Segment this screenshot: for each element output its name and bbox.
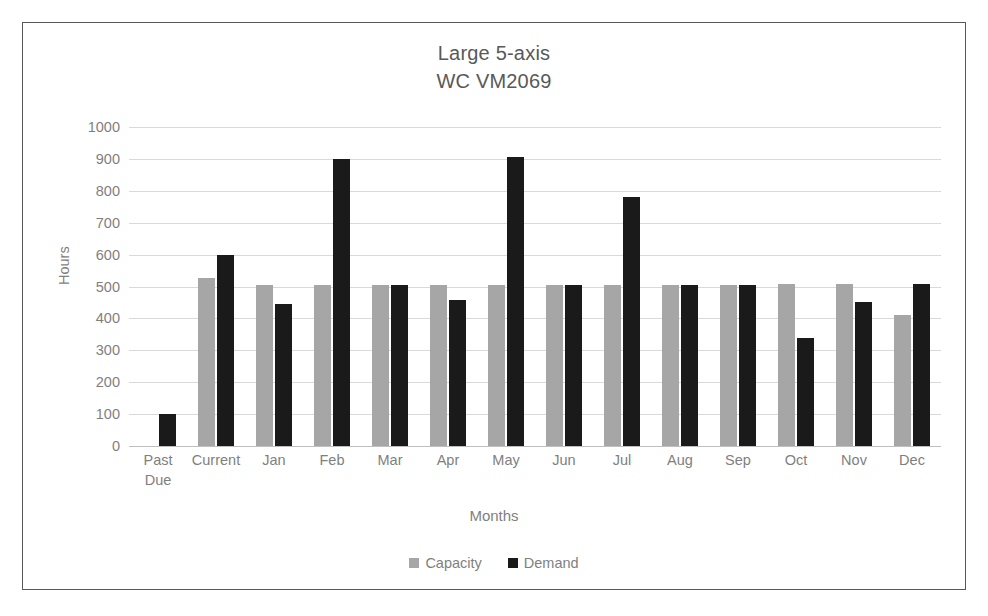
legend-swatch-icon <box>409 558 419 568</box>
bar-demand <box>623 197 640 446</box>
bar-demand <box>913 284 930 446</box>
x-tick-label-line: Dec <box>883 450 941 470</box>
bar-group <box>651 127 709 446</box>
x-tick-label: Jul <box>593 450 651 470</box>
x-tick-label: May <box>477 450 535 470</box>
x-tick-label-line: Past <box>129 450 187 470</box>
bar-group <box>361 127 419 446</box>
x-tick-label: Dec <box>883 450 941 470</box>
x-tick-label-line: May <box>477 450 535 470</box>
bar-demand <box>565 285 582 446</box>
bar-group <box>419 127 477 446</box>
legend-item[interactable]: Capacity <box>409 555 481 571</box>
gridline-0: 0 <box>129 446 941 447</box>
plot-area: 01002003004005006007008009001000 <box>129 127 941 446</box>
bar-demand <box>217 255 234 446</box>
x-tick-label: Jan <box>245 450 303 470</box>
x-tick-label: Apr <box>419 450 477 470</box>
bar-group <box>477 127 535 446</box>
y-tick-label: 500 <box>96 279 120 295</box>
x-tick-label-line: Nov <box>825 450 883 470</box>
bar-demand <box>449 300 466 446</box>
bar-capacity <box>256 285 273 446</box>
bar-group <box>535 127 593 446</box>
x-tick-label-line: Jul <box>593 450 651 470</box>
chart-title-line-1: Large 5-axis <box>23 39 965 67</box>
bar-capacity <box>720 285 737 446</box>
bar-group <box>303 127 361 446</box>
bar-capacity <box>662 285 679 446</box>
bar-demand <box>159 414 176 446</box>
bar-demand <box>333 159 350 446</box>
x-tick-label-line: Due <box>129 470 187 490</box>
y-tick-label: 400 <box>96 310 120 326</box>
x-tick-label-line: Apr <box>419 450 477 470</box>
bar-capacity <box>488 285 505 446</box>
bar-capacity <box>894 315 911 446</box>
x-axis-tick-labels: PastDueCurrentJanFebMarAprMayJunJulAugSe… <box>129 450 941 502</box>
x-tick-label-line: Jan <box>245 450 303 470</box>
bar-group <box>187 127 245 446</box>
x-tick-label: Jun <box>535 450 593 470</box>
y-tick-label: 300 <box>96 342 120 358</box>
x-tick-label: Feb <box>303 450 361 470</box>
bars-layer <box>129 127 941 446</box>
x-tick-label: Mar <box>361 450 419 470</box>
x-tick-label-line: Oct <box>767 450 825 470</box>
y-axis-title: Hours <box>56 246 72 285</box>
bar-capacity <box>778 284 795 446</box>
bar-demand <box>391 285 408 446</box>
y-tick-label: 700 <box>96 215 120 231</box>
y-tick-label: 800 <box>96 183 120 199</box>
chart-title-line-2: WC VM2069 <box>23 67 965 95</box>
legend-label: Capacity <box>425 555 481 571</box>
y-tick-label: 0 <box>112 438 120 454</box>
x-tick-label-line: Jun <box>535 450 593 470</box>
bar-group <box>245 127 303 446</box>
x-tick-label-line: Feb <box>303 450 361 470</box>
legend-swatch-icon <box>508 558 518 568</box>
chart-legend: CapacityDemand <box>23 555 965 571</box>
bar-demand <box>855 302 872 446</box>
x-tick-label-line: Aug <box>651 450 709 470</box>
bar-demand <box>507 157 524 446</box>
bar-group <box>883 127 941 446</box>
bar-group <box>593 127 651 446</box>
bar-group <box>767 127 825 446</box>
x-tick-label: Oct <box>767 450 825 470</box>
y-tick-label: 100 <box>96 406 120 422</box>
bar-group <box>709 127 767 446</box>
x-tick-label: Nov <box>825 450 883 470</box>
chart-frame: Large 5-axis WC VM2069 Hours 01002003004… <box>22 22 966 590</box>
bar-capacity <box>372 285 389 446</box>
bar-capacity <box>546 285 563 446</box>
x-tick-label: Aug <box>651 450 709 470</box>
bar-demand <box>739 285 756 446</box>
bar-group <box>825 127 883 446</box>
legend-item[interactable]: Demand <box>508 555 579 571</box>
legend-label: Demand <box>524 555 579 571</box>
x-tick-label: Sep <box>709 450 767 470</box>
bar-capacity <box>430 285 447 446</box>
bar-capacity <box>836 284 853 446</box>
chart-title: Large 5-axis WC VM2069 <box>23 39 965 95</box>
x-tick-label-line: Current <box>187 450 245 470</box>
y-tick-label: 1000 <box>88 119 120 135</box>
bar-demand <box>275 304 292 446</box>
bar-demand <box>681 285 698 446</box>
x-axis-title: Months <box>23 507 965 524</box>
bar-capacity <box>604 285 621 446</box>
bar-demand <box>797 338 814 446</box>
y-tick-label: 600 <box>96 247 120 263</box>
bar-group <box>129 127 187 446</box>
x-tick-label: Current <box>187 450 245 470</box>
x-tick-label-line: Mar <box>361 450 419 470</box>
x-tick-label: PastDue <box>129 450 187 490</box>
y-tick-label: 900 <box>96 151 120 167</box>
x-tick-label-line: Sep <box>709 450 767 470</box>
y-tick-label: 200 <box>96 374 120 390</box>
bar-capacity <box>314 285 331 446</box>
bar-capacity <box>198 278 215 446</box>
